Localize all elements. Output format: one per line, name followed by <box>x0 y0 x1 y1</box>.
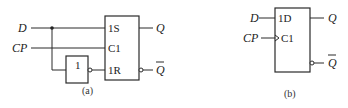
input-cp-label: CP <box>243 31 259 45</box>
input-d-label: D <box>17 21 27 35</box>
qbar-inversion-bubble <box>310 61 314 65</box>
caption-b: (b) <box>284 88 296 100</box>
output-q-label: Q <box>156 21 165 35</box>
pin-c1-label: C1 <box>108 42 121 54</box>
output-qbar-label: Q <box>156 63 165 77</box>
output-q-label: Q <box>328 11 337 25</box>
pin-1s-label: 1S <box>108 22 120 34</box>
pin-1r-label: 1R <box>108 64 122 76</box>
circuit-diagram: D CP 1 1S C1 1R Q Q (a) D CP 1D C1 <box>0 0 348 108</box>
qbar-inversion-bubble <box>139 68 143 72</box>
figure-a-rs-to-d-flipflop: D CP 1 1S C1 1R Q Q (a) <box>12 16 165 97</box>
input-d-label: D <box>249 11 259 25</box>
not-gate-label: 1 <box>75 59 81 71</box>
pin-c1-label: C1 <box>281 32 294 44</box>
figure-b-d-flipflop-symbol: D CP 1D C1 Q Q (b) <box>243 8 337 100</box>
input-cp-label: CP <box>12 41 28 55</box>
output-qbar-label: Q <box>328 56 337 70</box>
wire-d-to-not <box>52 28 66 70</box>
pin-1d-label: 1D <box>278 12 292 24</box>
inversion-bubble <box>88 68 92 72</box>
caption-a: (a) <box>82 85 93 97</box>
